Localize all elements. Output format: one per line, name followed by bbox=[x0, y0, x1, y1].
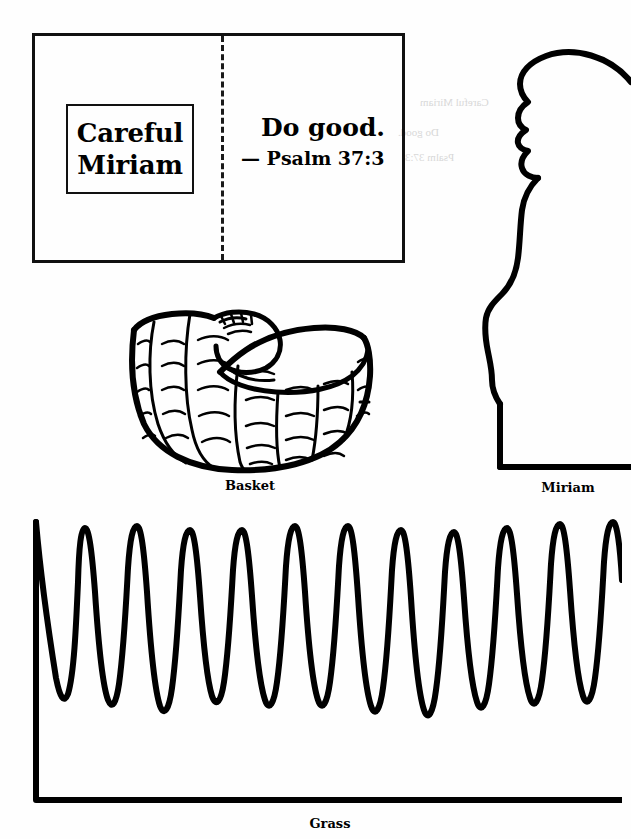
figure-label-basket: Basket bbox=[180, 478, 320, 493]
grass-illustration bbox=[22, 508, 622, 813]
greeting-card-template: Careful Miriam Do good. — Psalm 37:3 bbox=[32, 33, 405, 263]
miriam-silhouette-outline bbox=[470, 30, 631, 490]
basket-illustration bbox=[128, 300, 378, 480]
figure-label-miriam: Miriam bbox=[505, 480, 631, 495]
card-title-box: Careful Miriam bbox=[66, 104, 194, 194]
bleed-through-text-3: Psalm 37:3 bbox=[405, 150, 454, 165]
worksheet-page: Careful Miriam Do good. Psalm 37:3 Caref… bbox=[0, 0, 631, 839]
verse-text: Do good. bbox=[241, 112, 401, 143]
card-verse-block: Do good. — Psalm 37:3 bbox=[241, 112, 401, 171]
card-title-line-1: Careful bbox=[77, 117, 183, 149]
verse-reference: — Psalm 37:3 bbox=[241, 145, 401, 171]
figure-label-grass: Grass bbox=[250, 816, 410, 831]
card-title-line-2: Miriam bbox=[77, 149, 182, 181]
card-fold-dashed-line bbox=[221, 36, 224, 260]
